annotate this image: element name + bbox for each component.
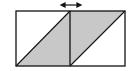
double-arrow-icon [61, 3, 81, 7]
diagram [0, 0, 130, 71]
